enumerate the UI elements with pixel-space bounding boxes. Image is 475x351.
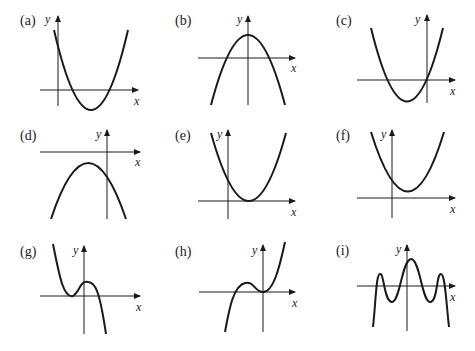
graph-f <box>310 115 468 232</box>
y-axis-label: y <box>73 243 78 258</box>
x-axis-label: x <box>135 155 140 170</box>
y-axis-label: y <box>415 12 420 27</box>
panel-i: (i) y x <box>310 230 468 347</box>
x-axis-label: x <box>292 296 297 311</box>
graph-h <box>155 230 313 347</box>
y-axis-label: y <box>45 12 50 27</box>
x-axis-label: x <box>450 290 455 305</box>
panel-b: (b) y x <box>155 0 313 117</box>
x-axis-label: x <box>134 94 139 109</box>
panel-e: (e) y x <box>155 115 313 232</box>
x-axis-label: x <box>291 205 296 220</box>
panel-g: (g) y x <box>0 230 158 347</box>
panel-a: (a) y x <box>0 0 158 117</box>
y-axis-label: y <box>396 242 401 257</box>
y-axis-label: y <box>96 127 101 142</box>
x-axis-label: x <box>291 61 296 76</box>
x-axis-label: x <box>450 202 455 217</box>
y-axis-label: y <box>237 12 242 27</box>
graph-b <box>155 0 313 117</box>
graph-c <box>310 0 468 117</box>
graph-d <box>0 115 158 232</box>
panel-d: (d) y x <box>0 115 158 232</box>
y-axis-label: y <box>252 243 257 258</box>
graph-e <box>155 115 313 232</box>
y-axis-label: y <box>217 127 222 142</box>
panel-h: (h) y x <box>155 230 313 347</box>
x-axis-label: x <box>450 84 455 99</box>
graph-i <box>310 230 468 347</box>
x-axis-label: x <box>136 300 141 315</box>
panel-c: (c) y x <box>310 0 468 117</box>
y-axis-label: y <box>381 127 386 142</box>
panel-f: (f) y x <box>310 115 468 232</box>
graph-g <box>0 230 158 347</box>
